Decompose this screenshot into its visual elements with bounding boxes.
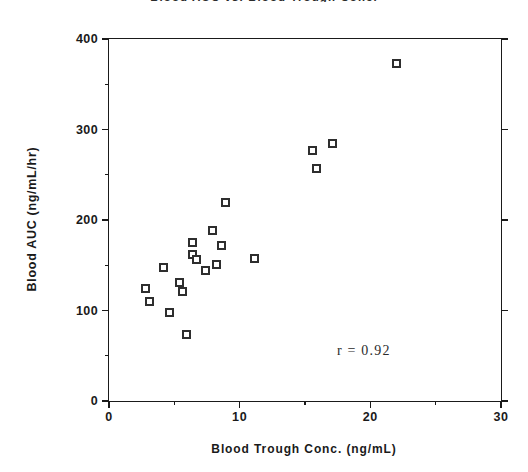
data-point-marker [217, 241, 226, 250]
data-point-marker [175, 278, 184, 287]
y-axis-title: Blood AUC (ng/mL/hr) [22, 38, 42, 400]
data-point-marker [165, 308, 174, 317]
data-point-marker [178, 287, 187, 296]
y-axis-minor-tick [105, 174, 109, 175]
y-axis-tick-right [501, 38, 508, 40]
data-point-marker [328, 139, 337, 148]
y-axis-tick [102, 310, 109, 312]
y-axis-tick [102, 38, 109, 40]
y-axis-tick-label: 0 [91, 394, 98, 408]
data-point-marker [250, 254, 259, 263]
y-axis-minor-tick [105, 355, 109, 356]
correlation-annotation: r = 0.92 [337, 343, 391, 359]
y-axis-tick-right [501, 310, 508, 312]
x-axis-tick-label: 30 [493, 410, 508, 424]
data-point-marker [208, 226, 217, 235]
data-point-marker [182, 330, 191, 339]
data-point-marker [221, 198, 230, 207]
y-axis-tick-label: 200 [76, 213, 98, 227]
data-point-marker [188, 238, 197, 247]
x-axis-title: Blood Trough Conc. (ng/mL) [108, 442, 500, 456]
data-point-marker [159, 263, 168, 272]
y-axis-tick-right [501, 400, 508, 402]
x-axis-tick-label: 0 [105, 410, 113, 424]
y-axis-tick [102, 129, 109, 131]
data-point-marker [312, 164, 321, 173]
scatter-chart-figure: Blood AUC vs. Blood Trough Conc. Blood A… [0, 0, 528, 472]
data-point-marker [392, 59, 401, 68]
data-point-marker [141, 284, 150, 293]
y-axis-tick-label: 400 [76, 32, 98, 46]
y-axis-tick-label: 300 [76, 123, 98, 137]
y-axis-minor-tick [105, 265, 109, 266]
x-axis-minor-tick [304, 401, 305, 405]
data-point-marker [192, 255, 201, 264]
data-point-marker [308, 146, 317, 155]
y-axis-minor-tick [105, 84, 109, 85]
data-point-marker [145, 297, 154, 306]
x-axis-tick [500, 401, 502, 408]
x-axis-tick [370, 401, 372, 408]
plot-area: 01002003004000102030 r = 0.92 [108, 38, 502, 402]
y-axis-tick [102, 219, 109, 221]
chart-title: Blood AUC vs. Blood Trough Conc. [0, 0, 528, 2]
data-point-marker [212, 260, 221, 269]
y-axis-tick-right [501, 129, 508, 131]
y-axis-tick-label: 100 [76, 304, 98, 318]
x-axis-tick [239, 401, 241, 408]
data-point-marker [201, 266, 210, 275]
y-axis-tick-right [501, 219, 508, 221]
x-axis-minor-tick [174, 401, 175, 405]
x-axis-tick-label: 20 [363, 410, 378, 424]
x-axis-tick-label: 10 [232, 410, 247, 424]
x-axis-minor-tick [435, 401, 436, 405]
x-axis-tick [108, 401, 110, 408]
